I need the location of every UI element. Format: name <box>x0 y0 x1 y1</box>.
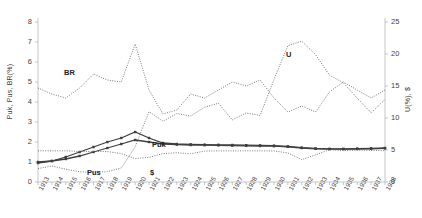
chart-container: Puk, Pus, BR(%) U(%), $ 012345678 051015… <box>0 0 422 218</box>
data-point-marker <box>273 145 275 147</box>
data-point-marker <box>287 146 289 148</box>
series-label-Pus: Pus <box>87 168 101 177</box>
series-label-U: U <box>286 50 291 59</box>
data-point-marker <box>301 147 303 149</box>
data-point-marker <box>189 144 191 146</box>
series-label-BR: BR <box>64 68 75 77</box>
data-point-marker <box>134 139 136 141</box>
series-line-BR <box>38 44 385 114</box>
data-point-marker <box>37 161 39 163</box>
data-point-marker <box>245 145 247 147</box>
data-point-marker <box>370 148 372 150</box>
plot-area <box>0 0 422 218</box>
data-point-marker <box>203 144 205 146</box>
data-point-marker <box>231 144 233 146</box>
series-label-dollar: $ <box>150 168 154 177</box>
data-point-marker <box>176 143 178 145</box>
series-label-Puk: Puk <box>152 140 166 149</box>
series-line-Puk <box>38 132 385 163</box>
series-line-$ <box>38 150 385 160</box>
series-group <box>37 41 386 172</box>
data-point-marker <box>217 144 219 146</box>
data-point-marker <box>92 146 94 148</box>
data-point-marker <box>120 143 122 145</box>
data-point-marker <box>259 145 261 147</box>
axis-lines <box>35 18 388 185</box>
data-point-marker <box>342 148 344 150</box>
data-point-marker <box>148 141 150 143</box>
data-point-marker <box>384 147 386 149</box>
data-point-marker <box>106 147 108 149</box>
data-point-marker <box>148 137 150 139</box>
data-point-marker <box>78 155 80 157</box>
data-point-marker <box>106 141 108 143</box>
data-point-marker <box>134 131 136 133</box>
data-point-marker <box>51 160 53 162</box>
data-point-marker <box>65 158 67 160</box>
data-point-marker <box>314 148 316 150</box>
data-point-marker <box>120 137 122 139</box>
